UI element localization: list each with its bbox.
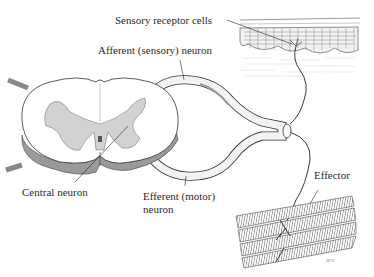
skin-tissue — [240, 18, 360, 76]
label-effector: Effector — [314, 169, 350, 181]
label-sensory-receptor-cells: Sensory receptor cells — [115, 14, 212, 26]
muscle-fibers — [236, 196, 356, 268]
label-efferent-neuron-line1: Efferent (motor) — [143, 190, 215, 202]
sensory-fiber — [290, 46, 306, 124]
nerve-trunk-end — [283, 124, 291, 138]
label-efferent-neuron-line2: neuron — [143, 203, 174, 215]
reflex-arc-diagram: Sensory receptor cells Afferent (sensory… — [0, 0, 374, 277]
spinal-cord — [6, 78, 178, 174]
artist-signature: MFK — [326, 258, 334, 263]
illustration — [0, 0, 374, 277]
label-afferent-neuron: Afferent (sensory) neuron — [98, 44, 212, 56]
label-central-neuron: Central neuron — [22, 186, 88, 198]
